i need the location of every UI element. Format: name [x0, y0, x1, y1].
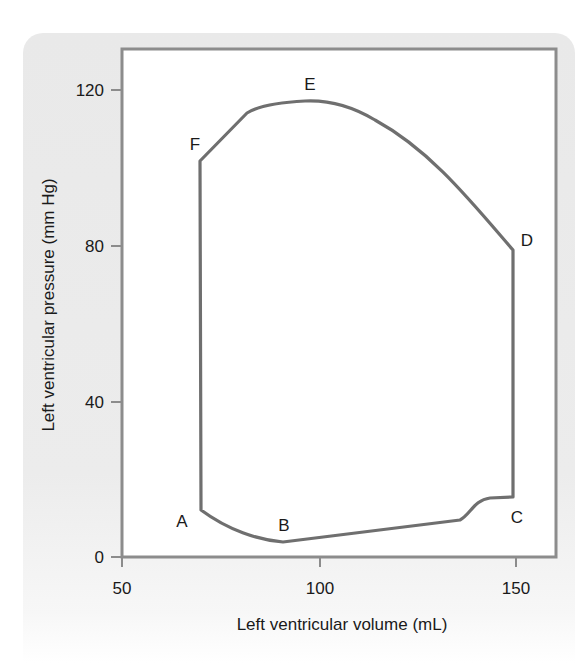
y-tick-label-0: 0: [95, 548, 104, 567]
point-label-f: F: [190, 135, 200, 154]
point-label-a: A: [176, 512, 188, 531]
x-axis-title: Left ventricular volume (mL): [237, 615, 448, 634]
point-label-b: B: [278, 516, 289, 535]
pv-loop-chart: 0 40 80 120 50 100 150 Left ventricular …: [0, 0, 588, 663]
x-tick-label-100: 100: [306, 579, 334, 598]
x-tick-label-150: 150: [502, 579, 530, 598]
y-tick-label-80: 80: [85, 237, 104, 256]
x-tick-label-50: 50: [113, 579, 132, 598]
point-label-d: D: [521, 231, 533, 250]
point-label-e: E: [304, 75, 315, 94]
plot-frame: [122, 49, 556, 557]
point-label-c: C: [511, 508, 523, 527]
y-tick-label-40: 40: [85, 393, 104, 412]
y-axis: [111, 90, 122, 557]
y-tick-label-120: 120: [76, 81, 104, 100]
y-axis-title: Left ventricular pressure (mm Hg): [39, 178, 58, 431]
